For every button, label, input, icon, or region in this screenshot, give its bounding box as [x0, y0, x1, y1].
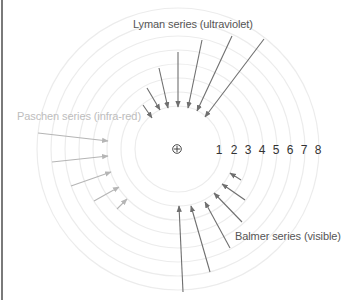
- paschen-arrow-icon-1: [38, 133, 108, 141]
- lyman-arrow-icon-3: [159, 68, 168, 108]
- paschen-arrow-icon-3: [71, 172, 111, 186]
- balmer-series-label: Balmer series (visible): [235, 230, 341, 242]
- shell-number-1: 1: [216, 143, 223, 157]
- lyman-series-label: Lyman series (ultraviolet): [133, 18, 253, 30]
- shell-number-5: 5: [273, 143, 280, 157]
- balmer-arrow-icon-1: [230, 173, 241, 180]
- paschen-arrow-icon-4: [94, 187, 119, 201]
- transition-arrows: [38, 36, 264, 292]
- lyman-arrow-icon-2: [147, 88, 160, 110]
- shell-number-4: 4: [259, 143, 266, 157]
- shell-number-3: 3: [245, 143, 252, 157]
- shell-number-6: 6: [287, 143, 294, 157]
- paschen-arrow-icon-5: [117, 199, 127, 209]
- lyman-arrow-icon-6: [197, 36, 232, 111]
- balmer-arrow-icon-4: [205, 202, 230, 248]
- shell-number-7: 7: [301, 143, 308, 157]
- paschen-series-label: Paschen series (infra-red): [17, 110, 141, 122]
- lyman-arrow-icon-1: [143, 105, 152, 118]
- shell-number-8: 8: [315, 143, 322, 157]
- balmer-arrow-icon-6: [179, 206, 183, 292]
- balmer-arrow-icon-2: [222, 184, 245, 200]
- shell-number-2: 2: [231, 143, 238, 157]
- nucleus-plus-icon: [172, 144, 182, 154]
